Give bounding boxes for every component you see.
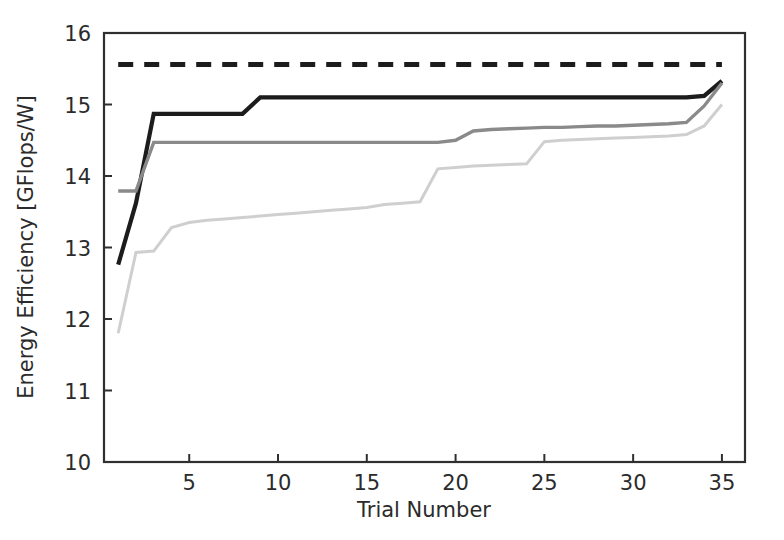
energy-efficiency-line-chart: 5101520253035 10111213141516 Trial Numbe… xyxy=(0,0,784,540)
x-tick-label-5: 5 xyxy=(183,471,196,495)
y-axis-title: Energy Efficiency [GFlops/W] xyxy=(14,95,38,399)
x-tick-label-25: 25 xyxy=(531,471,558,495)
x-tick-label-20: 20 xyxy=(442,471,469,495)
x-axis-title: Trial Number xyxy=(356,498,491,522)
x-tick-label-35: 35 xyxy=(709,471,736,495)
y-axis-tick-labels: 10111213141516 xyxy=(64,22,91,475)
y-tick-label-10: 10 xyxy=(64,451,91,475)
x-tick-label-10: 10 xyxy=(265,471,292,495)
y-axis-ticks xyxy=(104,33,112,462)
y-tick-label-14: 14 xyxy=(64,165,91,189)
chart-figure: 5101520253035 10111213141516 Trial Numbe… xyxy=(0,0,784,540)
series-light-gray-solid xyxy=(118,105,722,334)
data-series-group xyxy=(118,64,722,333)
y-tick-label-11: 11 xyxy=(64,380,91,404)
y-tick-label-15: 15 xyxy=(64,94,91,118)
x-tick-label-15: 15 xyxy=(353,471,380,495)
y-tick-label-13: 13 xyxy=(64,237,91,261)
series-dark-solid xyxy=(118,81,722,265)
x-tick-label-30: 30 xyxy=(620,471,647,495)
x-axis-ticks xyxy=(189,454,722,462)
y-tick-label-12: 12 xyxy=(64,308,91,332)
y-tick-label-16: 16 xyxy=(64,22,91,46)
x-axis-tick-labels: 5101520253035 xyxy=(183,471,736,495)
